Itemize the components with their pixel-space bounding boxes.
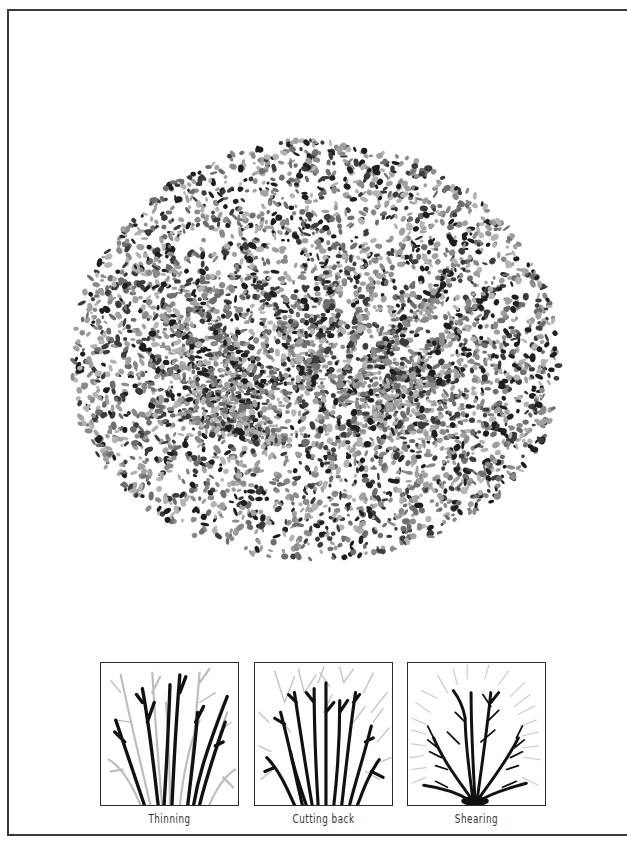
label-shearing: Shearing <box>417 812 535 826</box>
label-thinning: Thinning <box>110 812 228 826</box>
panel-shearing <box>407 662 546 806</box>
cutting-back-branches-icon <box>255 663 392 805</box>
shearing-branches-icon <box>408 663 545 805</box>
shrub-illustration <box>50 70 580 580</box>
panel-cutting-back <box>254 662 393 806</box>
label-cutting-back: Cutting back <box>264 812 382 826</box>
panel-thinning <box>100 662 239 806</box>
thinning-branches-icon <box>101 663 238 805</box>
